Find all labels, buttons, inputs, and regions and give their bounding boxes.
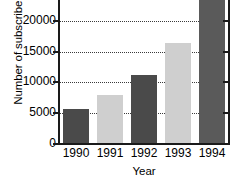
x-tick-label: 1992 <box>127 147 161 159</box>
right-tick-mark <box>223 143 229 145</box>
x-tick-label: 1994 <box>195 147 229 159</box>
bar <box>199 0 225 144</box>
y-tick-mark <box>53 51 59 53</box>
right-tick-mark <box>223 51 229 53</box>
plot-area <box>59 0 229 144</box>
y-axis-tick-labels: 05000100001500020000 <box>0 0 56 182</box>
x-axis-tick-labels: 19901991199219931994 <box>59 147 229 163</box>
y-tick-label: 10000 <box>23 75 56 87</box>
x-axis-line <box>58 143 230 145</box>
x-tick-label: 1990 <box>59 147 93 159</box>
bar <box>165 43 191 144</box>
y-tick-label: 20000 <box>23 14 56 26</box>
y-tick-mark <box>53 20 59 22</box>
bar <box>131 75 157 144</box>
x-axis-label: Year <box>59 165 229 177</box>
bar-chart: Number of subscribers 050001000015000200… <box>0 0 239 182</box>
x-tick-label: 1993 <box>161 147 195 159</box>
y-tick-mark <box>53 81 59 83</box>
y-tick-label: 15000 <box>23 45 56 57</box>
right-tick-mark <box>223 81 229 83</box>
bar <box>97 95 123 144</box>
right-tick-mark <box>223 112 229 114</box>
plot-inner <box>59 0 229 144</box>
right-tick-mark <box>223 20 229 22</box>
y-tick-mark <box>53 143 59 145</box>
y-tick-mark <box>53 112 59 114</box>
y-tick-label: 5000 <box>29 106 56 118</box>
bar <box>63 109 89 144</box>
x-tick-label: 1991 <box>93 147 127 159</box>
